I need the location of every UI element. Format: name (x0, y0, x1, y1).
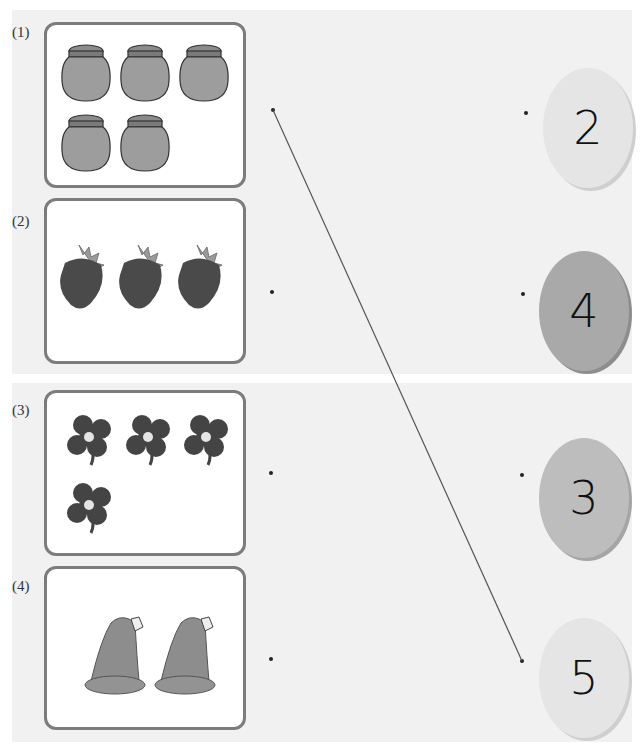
number-oval-4[interactable]: 4 (539, 251, 629, 371)
number-oval-2[interactable]: 2 (543, 68, 633, 188)
number-value: 2 (573, 101, 602, 155)
right-dot-4[interactable] (520, 659, 524, 663)
right-dot-1[interactable] (524, 111, 528, 115)
number-value: 3 (569, 471, 598, 525)
right-dot-2[interactable] (521, 292, 525, 296)
number-oval-5[interactable]: 5 (539, 618, 629, 738)
strawberries-icon (47, 201, 243, 361)
item-label-4: (4) (12, 578, 30, 595)
picture-card-strawberries[interactable] (44, 198, 246, 364)
left-dot-3[interactable] (269, 471, 273, 475)
picture-card-jars[interactable] (44, 22, 246, 188)
right-dot-3[interactable] (520, 473, 524, 477)
left-dot-2[interactable] (270, 290, 274, 294)
number-oval-3[interactable]: 3 (539, 438, 629, 558)
left-dot-1[interactable] (271, 108, 275, 112)
picture-card-clovers[interactable] (44, 390, 246, 556)
picture-card-hats[interactable] (44, 566, 246, 730)
item-label-2: (2) (12, 213, 30, 230)
item-label-3: (3) (12, 402, 30, 419)
number-value: 4 (569, 284, 598, 338)
clovers-icon (47, 393, 243, 553)
number-value: 5 (569, 651, 598, 705)
hats-icon (47, 569, 243, 727)
item-label-1: (1) (12, 24, 30, 41)
left-dot-4[interactable] (269, 657, 273, 661)
jars-icon (47, 25, 243, 185)
